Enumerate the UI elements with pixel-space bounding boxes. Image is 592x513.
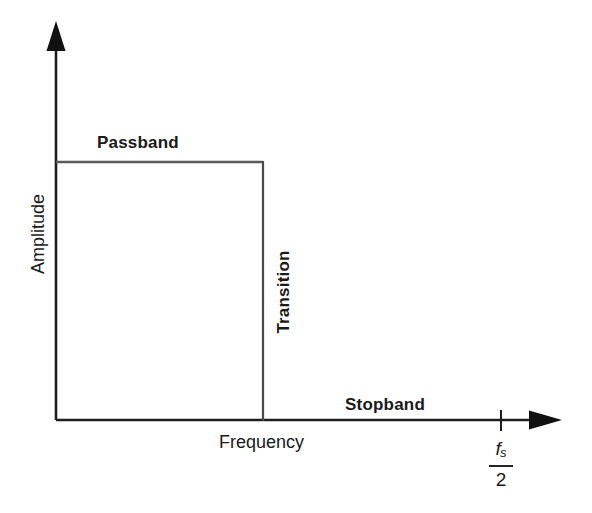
fraction-denominator: 2 [486, 470, 516, 490]
fraction-bar [489, 465, 513, 467]
x-axis-arrowhead-icon [529, 411, 562, 430]
passband-label: Passband [97, 134, 179, 151]
nyquist-frequency-label: fs 2 [486, 438, 516, 490]
stopband-label: Stopband [345, 396, 425, 413]
y-axis-arrowhead-icon [47, 21, 66, 51]
x-axis-label: Frequency [219, 433, 304, 451]
y-axis-label: Amplitude [29, 194, 47, 274]
sampling-frequency-subscript: s [500, 445, 507, 460]
transition-label: Transition [275, 250, 292, 333]
fraction-numerator: fs [486, 438, 516, 462]
filter-response-diagram: Passband Stopband Transition Amplitude F… [0, 0, 592, 513]
